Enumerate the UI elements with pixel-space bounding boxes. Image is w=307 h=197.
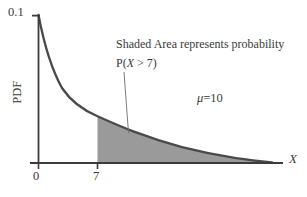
probability-variable: X — [127, 56, 134, 70]
x-tick-label-0: 0 — [33, 170, 39, 183]
x-tick-label-7: 7 — [93, 170, 99, 183]
mean-parameter-label: μ=10 — [197, 92, 223, 105]
x-axis-title: X — [289, 152, 297, 165]
plot-canvas — [0, 0, 307, 197]
y-axis-max-label: 0.1 — [8, 6, 24, 19]
y-axis-title: PDF — [11, 69, 24, 115]
annotation-leader-line — [124, 72, 129, 133]
probability-suffix: > 7) — [134, 56, 157, 70]
probability-prefix: P( — [116, 56, 127, 70]
annotation-shaded-area-text: Shaded Area represents probability — [116, 38, 284, 50]
mu-value: =10 — [203, 91, 223, 105]
annotation-probability-expression: P(X > 7) — [116, 57, 157, 69]
exponential-pdf-figure: 0.1 PDF 0 7 X Shaded Area represents pro… — [0, 0, 307, 197]
shaded-tail-area — [98, 116, 273, 163]
